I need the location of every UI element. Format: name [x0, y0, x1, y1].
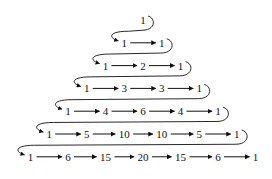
curved-arrow-icon	[112, 16, 154, 41]
triangle-entry: 3	[122, 83, 128, 94]
triangle-entry: 6	[140, 106, 146, 117]
triangle-entry: 15	[175, 151, 186, 162]
triangle-entry: 1	[122, 37, 128, 48]
triangle-entry: 1	[234, 129, 240, 140]
triangle-entry: 4	[178, 106, 184, 117]
triangle-entry: 3	[159, 83, 165, 94]
pascal-triangle-diagram: 111121133114641151010511615201561	[0, 0, 272, 179]
triangle-entry: 1	[253, 151, 259, 162]
triangle-entry: 1	[215, 106, 221, 117]
triangle-entry: 1	[140, 15, 146, 26]
triangle-entry: 15	[100, 151, 111, 162]
triangle-entry: 1	[103, 60, 109, 71]
triangle-entry: 1	[84, 83, 90, 94]
triangle-entry: 10	[156, 129, 167, 140]
triangle-entry: 5	[197, 129, 203, 140]
triangle-entry: 1	[28, 151, 34, 162]
triangle-entry: 6	[65, 151, 71, 162]
triangle-entry: 1	[65, 106, 71, 117]
triangle-entry: 10	[119, 129, 130, 140]
triangle-entry: 1	[178, 60, 184, 71]
triangle-entry: 5	[84, 129, 90, 140]
arrow-layer	[0, 0, 272, 179]
triangle-entry: 2	[140, 60, 146, 71]
triangle-entry: 20	[138, 151, 149, 162]
triangle-entry: 1	[159, 37, 165, 48]
triangle-entry: 6	[215, 151, 221, 162]
triangle-entry: 4	[103, 106, 109, 117]
triangle-entry: 1	[197, 83, 203, 94]
triangle-entry: 1	[47, 129, 53, 140]
